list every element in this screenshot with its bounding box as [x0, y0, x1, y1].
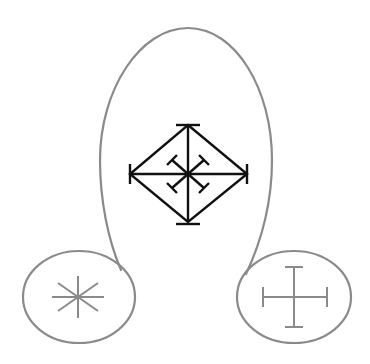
background [0, 0, 370, 364]
diagram-svg [0, 0, 370, 364]
diagram-canvas [0, 0, 370, 364]
